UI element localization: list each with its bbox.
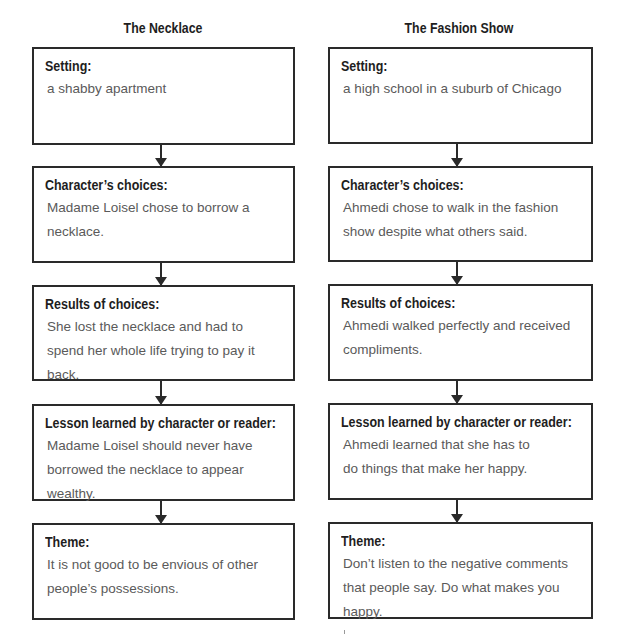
box-text: Don’t listen to the negative comments th…	[343, 552, 593, 624]
arrow-down-icon	[456, 144, 458, 166]
lesson-learned-box: Lesson learned by character or reader: A…	[328, 403, 593, 500]
box-text: Madame Loisel should never have borrowed…	[47, 434, 287, 506]
arrow-down-icon	[456, 262, 458, 284]
box-label: Theme:	[45, 533, 89, 551]
setting-box: Setting: a high school in a suburb of Ch…	[328, 47, 593, 144]
column-title: The Necklace	[48, 20, 279, 36]
box-text: It is not good to be envious of other pe…	[47, 553, 259, 601]
theme-box: Theme: Don’t listen to the negative comm…	[328, 522, 593, 619]
characters-choices-box: Character’s choices: Madame Loisel chose…	[32, 166, 295, 263]
box-text: Ahmedi chose to walk in the fashion show…	[343, 196, 563, 244]
results-of-choices-box: Results of choices: Ahmedi walked perfec…	[328, 284, 593, 381]
box-label: Results of choices:	[45, 295, 159, 313]
arrow-down-icon	[160, 381, 162, 404]
box-label: Character’s choices:	[341, 176, 464, 194]
box-label: Setting:	[45, 57, 91, 75]
results-of-choices-box: Results of choices: She lost the necklac…	[32, 285, 295, 381]
lesson-learned-box: Lesson learned by character or reader: M…	[32, 404, 295, 501]
box-label: Character’s choices:	[45, 176, 168, 194]
box-label: Lesson learned by character or reader:	[45, 414, 276, 432]
theme-box: Theme: It is not good to be envious of o…	[32, 523, 295, 620]
stray-mark	[344, 630, 345, 634]
characters-choices-box: Character’s choices: Ahmedi chose to wal…	[328, 166, 593, 262]
box-text: She lost the necklace and had to spend h…	[47, 315, 283, 387]
setting-box: Setting: a shabby apartment	[32, 47, 295, 145]
box-text: Ahmedi walked perfectly and received com…	[343, 314, 573, 362]
box-text: a shabby apartment	[47, 77, 281, 101]
box-label: Setting:	[341, 57, 387, 75]
arrow-down-icon	[456, 381, 458, 403]
box-text: Madame Loisel chose to borrow a necklace…	[47, 196, 257, 244]
arrow-down-icon	[160, 145, 162, 166]
box-text: a high school in a suburb of Chicago	[343, 77, 579, 101]
box-label: Theme:	[341, 532, 385, 550]
box-label: Lesson learned by character or reader:	[341, 413, 572, 431]
arrow-down-icon	[160, 263, 162, 285]
column-title: The Fashion Show	[344, 20, 575, 36]
arrow-down-icon	[160, 501, 162, 523]
arrow-down-icon	[456, 500, 458, 522]
box-label: Results of choices:	[341, 294, 455, 312]
box-text: Ahmedi learned that she has to do things…	[343, 433, 548, 481]
